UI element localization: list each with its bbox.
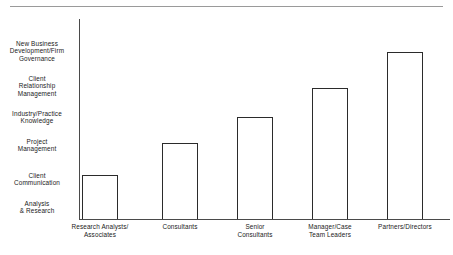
x-axis-tick-label-line: Consultants	[212, 231, 298, 239]
x-axis-tick-label-line: Manager/Case	[287, 223, 373, 231]
bar[interactable]	[237, 117, 273, 219]
x-axis-tick-label-line: Partners/Directors	[362, 223, 448, 231]
x-axis-tick-label: Manager/CaseTeam Leaders	[287, 223, 373, 238]
bar[interactable]	[162, 143, 198, 219]
bar-chart-figure: Analysis& ResearchClientCommunicationPro…	[0, 0, 453, 255]
x-axis-tick-label: Consultants	[137, 223, 223, 231]
x-axis-tick-label-line: Consultants	[137, 223, 223, 231]
x-axis-tick-label: Research Analysts/Associates	[57, 223, 143, 238]
x-axis-tick-label-line: Associates	[57, 231, 143, 239]
bar[interactable]	[82, 175, 118, 219]
bar[interactable]	[387, 52, 423, 219]
x-axis-tick-label: Partners/Directors	[362, 223, 448, 231]
bar[interactable]	[312, 88, 348, 219]
bar-series-group	[0, 0, 453, 255]
x-axis-tick-label-line: Research Analysts/	[57, 223, 143, 231]
x-axis-tick-label-line: Team Leaders	[287, 231, 373, 239]
x-axis-tick-label-line: Senior	[212, 223, 298, 231]
x-axis-tick-label: SeniorConsultants	[212, 223, 298, 238]
